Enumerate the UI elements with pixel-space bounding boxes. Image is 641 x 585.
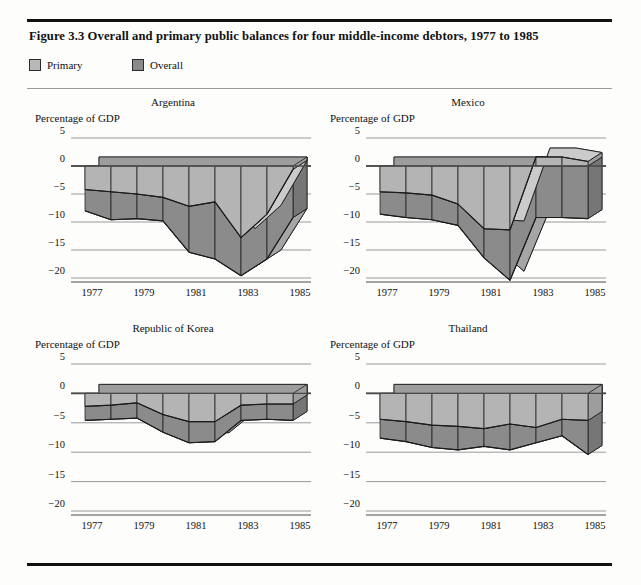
legend-swatch-overall-icon xyxy=(132,59,144,71)
x-tick-label: 1979 xyxy=(429,287,450,298)
x-tick-label: 1983 xyxy=(238,287,259,298)
chart-panel-thailand: ThailandPercentage of GDP50−5−10−15−2019… xyxy=(322,322,614,537)
primary-ribbon-front-segment xyxy=(189,393,215,421)
primary-ribbon-front-segment xyxy=(85,393,111,406)
legend-label-overall: Overall xyxy=(150,59,183,71)
chart-panel-argentina: ArgentinaPercentage of GDP50−5−10−15−201… xyxy=(27,96,319,304)
x-tick-label: 1981 xyxy=(186,287,207,298)
x-tick-label: 1983 xyxy=(533,287,554,298)
panel-title: Thailand xyxy=(322,322,614,334)
y-tick-label: 0 xyxy=(60,380,65,391)
y-tick-label: −10 xyxy=(344,439,360,450)
y-tick-label: −5 xyxy=(349,410,360,421)
primary-ribbon-front-segment xyxy=(241,393,267,405)
primary-ribbon-front-segment xyxy=(536,157,562,166)
primary-ribbon-front-segment xyxy=(406,166,432,195)
x-tick-label: 1979 xyxy=(429,520,450,531)
y-tick-label: 5 xyxy=(60,352,65,362)
legend-item-overall: Overall xyxy=(132,59,183,71)
primary-ribbon-front-segment xyxy=(510,393,536,427)
y-tick-label: 0 xyxy=(60,153,65,164)
chart-panel-mexico: MexicoPercentage of GDP50−5−10−15−201977… xyxy=(322,96,614,304)
y-tick-label: 5 xyxy=(355,352,360,362)
y-tick-label: 5 xyxy=(355,126,360,136)
x-tick-labels: 19771979198119831985 xyxy=(82,287,311,298)
primary-ribbon-front-segment xyxy=(380,166,406,193)
plot-area: 50−5−10−15−2019771979198119831985 xyxy=(322,352,614,537)
x-tick-label: 1983 xyxy=(533,520,554,531)
y-tick-label: −20 xyxy=(49,265,65,276)
primary-ribbon-front-segment xyxy=(111,166,137,194)
panel-title: Mexico xyxy=(322,96,614,108)
x-tick-label: 1981 xyxy=(481,520,502,531)
x-tick-label: 1977 xyxy=(82,520,103,531)
y-tick-label: −5 xyxy=(349,181,360,192)
y-tick-label: −15 xyxy=(49,237,65,248)
y-tick-label: −15 xyxy=(49,469,65,480)
primary-ribbon-front-segment xyxy=(432,393,458,426)
y-axis-label: Percentage of GDP xyxy=(35,112,120,124)
x-tick-label: 1983 xyxy=(238,520,259,531)
legend-swatch-primary-icon xyxy=(29,59,41,71)
y-tick-label: −10 xyxy=(49,209,65,220)
x-tick-label: 1977 xyxy=(377,520,398,531)
panel-title: Republic of Korea xyxy=(27,322,319,334)
legend-item-primary: Primary xyxy=(29,59,82,71)
y-tick-label: −10 xyxy=(49,439,65,450)
y-tick-label: −15 xyxy=(344,237,360,248)
y-axis-label: Percentage of GDP xyxy=(35,338,120,350)
primary-ribbon-front-segment xyxy=(458,393,484,428)
primary-ribbon-front-segment xyxy=(85,166,111,192)
y-tick-label: −10 xyxy=(344,209,360,220)
x-tick-labels: 19771979198119831985 xyxy=(377,287,606,298)
legend-label-primary: Primary xyxy=(47,59,82,71)
header-divider xyxy=(27,88,612,89)
plot-area: 50−5−10−15−2019771979198119831985 xyxy=(27,126,319,304)
primary-ribbon-front-segment xyxy=(189,166,215,206)
x-tick-label: 1985 xyxy=(585,520,606,531)
y-tick-label: −5 xyxy=(54,410,65,421)
x-tick-label: 1981 xyxy=(186,520,207,531)
x-tick-label: 1981 xyxy=(481,287,502,298)
x-tick-label: 1985 xyxy=(585,287,606,298)
y-tick-label: 5 xyxy=(60,126,65,136)
primary-ribbon-front-segment xyxy=(484,166,510,230)
plot-area: 50−5−10−15−2019771979198119831985 xyxy=(322,126,614,304)
panel-title: Argentina xyxy=(27,96,319,108)
bottom-rule xyxy=(27,563,612,566)
y-tick-label: −20 xyxy=(49,498,65,509)
y-tick-label: 0 xyxy=(355,380,360,391)
y-tick-label: 0 xyxy=(355,153,360,164)
y-tick-label: −20 xyxy=(344,498,360,509)
primary-ribbon-front-segment xyxy=(267,393,293,404)
primary-ribbon-front-segment xyxy=(406,393,432,425)
y-axis-label: Percentage of GDP xyxy=(330,338,415,350)
x-tick-label: 1985 xyxy=(290,520,311,531)
x-tick-label: 1977 xyxy=(377,287,398,298)
primary-ribbon-front-segment xyxy=(380,393,406,421)
y-tick-label: −20 xyxy=(344,265,360,276)
x-tick-labels: 19771979198119831985 xyxy=(377,520,606,531)
x-tick-labels: 19771979198119831985 xyxy=(82,520,311,531)
x-tick-label: 1985 xyxy=(290,287,311,298)
y-tick-label: −5 xyxy=(54,181,65,192)
figure-title: Figure 3.3 Overall and primary public ba… xyxy=(29,29,539,44)
figure-page: Figure 3.3 Overall and primary public ba… xyxy=(0,0,641,585)
x-tick-label: 1977 xyxy=(82,287,103,298)
y-axis-label: Percentage of GDP xyxy=(330,112,415,124)
top-rule xyxy=(27,19,612,22)
overall-ribbon-front-segment xyxy=(562,166,588,219)
plot-area: 50−5−10−15−2019771979198119831985 xyxy=(27,352,319,537)
primary-ribbon-front-segment xyxy=(137,166,163,197)
y-tick-label: −15 xyxy=(344,469,360,480)
x-tick-label: 1979 xyxy=(134,520,155,531)
primary-ribbon-front-segment xyxy=(484,393,510,428)
chart-panel-republic-of-korea: Republic of KoreaPercentage of GDP50−5−1… xyxy=(27,322,319,537)
primary-ribbon-front-segment xyxy=(562,393,588,420)
x-tick-label: 1979 xyxy=(134,287,155,298)
